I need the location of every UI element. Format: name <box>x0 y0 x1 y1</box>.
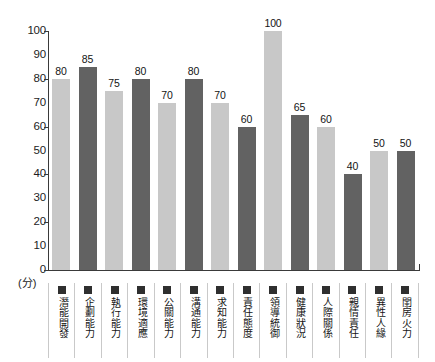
legend-swatch-icon <box>269 286 277 294</box>
bar-chart: 1009080706050403020100 (分) 8085758070807… <box>0 0 435 362</box>
y-axis-tick-label: 40 <box>20 168 46 180</box>
bar-value-label: 75 <box>97 78 131 89</box>
bar <box>105 91 123 270</box>
y-axis-tick-label: 80 <box>20 73 46 85</box>
category-label-cell: 執行能力 <box>101 283 127 358</box>
category-label-cell: 健康狀況 <box>286 283 312 358</box>
legend-swatch-icon <box>322 286 330 294</box>
y-axis-unit-label: (分) <box>18 274 36 290</box>
bar-slot: 80 <box>128 31 154 270</box>
category-label-cell: 閨房火力 <box>391 283 418 358</box>
y-axis-tick-mark <box>44 79 49 80</box>
category-label-text: 環境適應 <box>136 297 147 338</box>
category-label-cell: 領導統御 <box>259 283 285 358</box>
legend-swatch-icon <box>401 286 409 294</box>
bar <box>211 103 229 270</box>
bar-slot: 50 <box>366 31 392 270</box>
bar-value-label: 85 <box>71 54 105 65</box>
legend-swatch-icon <box>84 286 92 294</box>
y-axis-tick-mark <box>44 31 49 32</box>
bar-slot: 100 <box>260 31 286 270</box>
x-axis-line <box>48 270 420 271</box>
category-label-text: 溝通能力 <box>189 297 200 338</box>
category-label-text: 親情責任 <box>347 297 358 338</box>
legend-swatch-icon <box>348 286 356 294</box>
category-label-cell: 企劃能力 <box>74 283 100 358</box>
bar <box>317 127 335 270</box>
legend-swatch-icon <box>190 286 198 294</box>
bar-slot: 80 <box>48 31 74 270</box>
y-axis-labels: 1009080706050403020100 <box>10 0 46 362</box>
category-label-cell: 人際關係 <box>312 283 338 358</box>
bar <box>185 79 203 270</box>
bar-slot: 70 <box>207 31 233 270</box>
bar <box>370 151 388 271</box>
bar <box>344 174 362 270</box>
bar-slot: 85 <box>75 31 101 270</box>
bar <box>291 115 309 270</box>
bar <box>52 79 70 270</box>
bar <box>264 31 282 270</box>
category-label-cell: 責任態度 <box>233 283 259 358</box>
category-label-text: 潛能開發 <box>56 297 67 338</box>
category-label-cell: 潛能開發 <box>48 283 74 358</box>
legend-swatch-icon <box>296 286 304 294</box>
bar <box>158 103 176 270</box>
y-axis-tick-label: 90 <box>20 49 46 61</box>
category-label-text: 人際關係 <box>321 297 332 338</box>
category-label-text: 責任態度 <box>241 297 252 338</box>
category-label-text: 企劃能力 <box>83 297 94 338</box>
bar-value-label: 70 <box>203 90 237 101</box>
y-axis-tick-label: 20 <box>20 216 46 228</box>
category-label-text: 領導統御 <box>268 297 279 338</box>
category-label-text: 異性人緣 <box>373 297 384 338</box>
legend-swatch-icon <box>137 286 145 294</box>
y-axis-tick-mark <box>44 174 49 175</box>
x-axis-end-cap <box>419 264 420 271</box>
bar-value-label: 70 <box>150 90 184 101</box>
y-axis-tick-mark <box>44 222 49 223</box>
bar-value-label: 65 <box>283 102 317 113</box>
category-label-cell: 親情責任 <box>339 283 365 358</box>
y-axis-tick-label: 10 <box>20 240 46 252</box>
bar-value-label: 50 <box>389 138 423 149</box>
y-axis-tick-mark <box>44 270 49 271</box>
legend-swatch-icon <box>216 286 224 294</box>
category-label-cell: 公關能力 <box>154 283 180 358</box>
category-label-text: 公關能力 <box>162 297 173 338</box>
bar-slot: 50 <box>393 31 419 270</box>
y-axis-tick-label: 70 <box>20 97 46 109</box>
category-label-cell: 求知能力 <box>207 283 233 358</box>
bar-slot: 60 <box>313 31 339 270</box>
legend-swatch-icon <box>375 286 383 294</box>
bar <box>397 151 415 271</box>
bar-slot: 65 <box>287 31 313 270</box>
bar-value-label: 40 <box>336 161 370 172</box>
legend-swatch-icon <box>243 286 251 294</box>
bar-slot: 40 <box>340 31 366 270</box>
category-label-cell: 異性人緣 <box>365 283 391 358</box>
bar <box>132 79 150 270</box>
plot-area: 80857580708070601006560405050 <box>48 31 418 270</box>
bar-value-label: 80 <box>177 66 211 77</box>
legend-swatch-icon <box>58 286 66 294</box>
bar-value-label: 80 <box>124 66 158 77</box>
bar-value-label: 80 <box>44 66 78 77</box>
category-label-strip: 潛能開發企劃能力執行能力環境適應公關能力溝通能力求知能力責任態度領導統御健康狀況… <box>48 283 419 358</box>
category-label-text: 求知能力 <box>215 297 226 338</box>
y-axis-tick-mark <box>44 127 49 128</box>
bar-value-label: 100 <box>256 18 290 29</box>
bar-slot: 60 <box>234 31 260 270</box>
y-axis-tick-label: 50 <box>20 145 46 157</box>
category-label-cell: 溝通能力 <box>180 283 206 358</box>
bar-slot: 80 <box>181 31 207 270</box>
category-label-text: 閨房火力 <box>400 297 411 338</box>
category-label-text: 執行能力 <box>109 297 120 338</box>
category-label-text: 健康狀況 <box>294 297 305 338</box>
bar-value-label: 60 <box>309 114 343 125</box>
y-axis-tick-label: 60 <box>20 121 46 133</box>
bar-value-label: 60 <box>230 114 264 125</box>
y-axis-tick-label: 30 <box>20 192 46 204</box>
legend-swatch-icon <box>111 286 119 294</box>
legend-swatch-icon <box>163 286 171 294</box>
